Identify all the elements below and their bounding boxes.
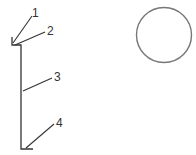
rod-top-step xyxy=(12,37,33,149)
label-3: 3 xyxy=(54,70,61,84)
label-4: 4 xyxy=(56,116,63,130)
leader-line-4 xyxy=(26,124,54,148)
diagram-canvas: 1 2 3 4 xyxy=(0,0,196,155)
label-1: 1 xyxy=(32,6,39,20)
leader-line-3 xyxy=(23,78,52,91)
circle-shape xyxy=(137,8,192,63)
rod-figure xyxy=(12,37,33,149)
label-2: 2 xyxy=(47,24,54,38)
